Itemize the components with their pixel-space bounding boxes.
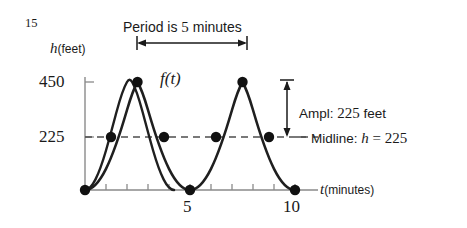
- midline-equation: h = 225: [361, 130, 407, 146]
- period-prefix: Period is: [123, 19, 181, 35]
- period-annotation-label: Period is 5 minutes: [123, 20, 242, 35]
- marked-points: [80, 77, 300, 195]
- y-axis-ticks: [85, 82, 94, 137]
- figure-container: 15 Period is 5 minutes h(feet) t(minutes…: [0, 0, 467, 228]
- period-span-arrow: [137, 36, 247, 50]
- x-tick-label-10: 10: [283, 198, 300, 215]
- period-value: 5: [181, 19, 189, 35]
- point-midline-t6-25: [211, 132, 221, 142]
- x-tick-label-5: 5: [183, 198, 192, 215]
- point-min-t0: [80, 185, 90, 195]
- point-max-t7-5: [237, 77, 247, 87]
- point-midline-t1-25: [106, 132, 116, 142]
- y-axis-units: (feet): [58, 42, 86, 56]
- point-min-t10: [290, 185, 300, 195]
- x-axis-units: (minutes): [324, 183, 374, 197]
- point-min-t5: [185, 185, 195, 195]
- amplitude-prefix: Ampl:: [299, 106, 337, 121]
- y-tick-label-225: 225: [39, 128, 65, 145]
- midline-annotation-label: Midline: h = 225: [311, 131, 407, 146]
- y-axis-variable: h: [50, 40, 58, 56]
- y-tick-label-450: 450: [39, 73, 65, 90]
- figure-number: 15: [25, 17, 38, 30]
- point-midline-t8-75: [264, 132, 274, 142]
- amplitude-suffix: feet: [360, 106, 386, 121]
- period-suffix: minutes: [189, 19, 242, 35]
- amplitude-annotation-label: Ampl: 225 feet: [299, 106, 386, 121]
- point-max-t2-5: [132, 77, 142, 87]
- amplitude-value: 225: [337, 105, 360, 121]
- x-axis-label: t(minutes): [320, 182, 374, 197]
- midline-prefix: Midline:: [311, 131, 361, 146]
- amplitude-span-arrow: [280, 80, 294, 137]
- y-axis-label: h(feet): [50, 41, 86, 56]
- function-curve-label: f(t): [160, 70, 181, 87]
- sinusoid-curve: [85, 82, 295, 190]
- point-midline-t3-75: [159, 132, 169, 142]
